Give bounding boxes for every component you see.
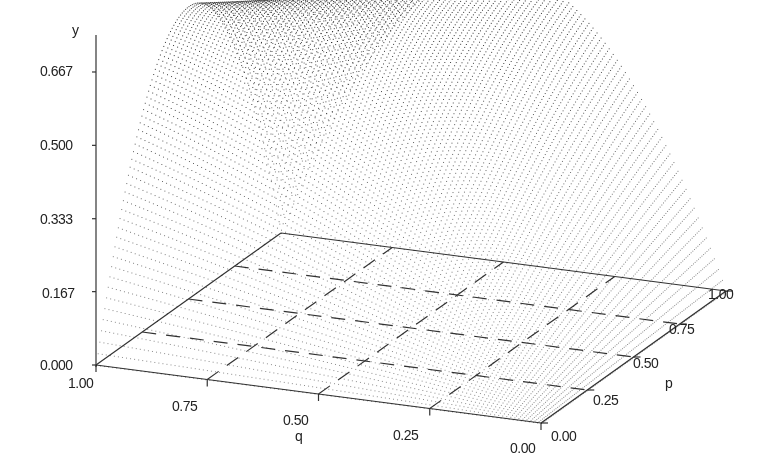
p-tick-075: 0.75 (669, 321, 694, 337)
p-tick-025: 0.25 (593, 392, 618, 408)
y-tick-0167: 0.167 (42, 285, 75, 301)
y-tick-0000: 0.000 (40, 357, 73, 373)
q-tick-100: 1.00 (68, 375, 93, 391)
q-tick-000: 0.00 (510, 440, 535, 456)
q-tick-075: 0.75 (172, 398, 197, 414)
p-tick-100: 1.00 (708, 286, 733, 302)
y-axis-title: y (72, 22, 79, 38)
y-tick-0333: 0.333 (40, 211, 73, 227)
q-tick-025: 0.25 (393, 427, 418, 443)
y-tick-0667: 0.667 (40, 63, 73, 79)
surface-plot (0, 0, 769, 472)
p-axis-title: p (665, 375, 672, 391)
y-tick-0500: 0.500 (40, 137, 73, 153)
q-tick-050: 0.50 (283, 412, 308, 428)
p-tick-000: 0.00 (551, 428, 576, 444)
q-axis-title: q (295, 428, 302, 444)
p-tick-050: 0.50 (633, 355, 658, 371)
